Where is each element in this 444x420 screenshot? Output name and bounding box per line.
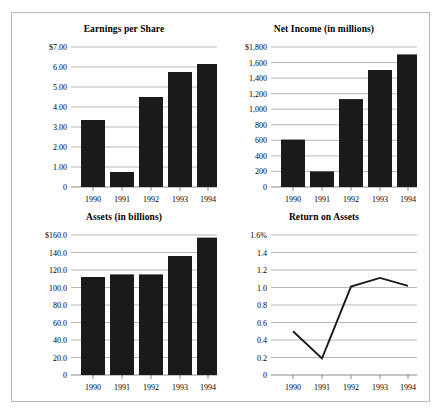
bars-earnings-per-share bbox=[81, 64, 217, 187]
y-tick-label: 1.2 bbox=[257, 266, 267, 275]
x-tick-label: 1993 bbox=[372, 195, 388, 204]
bars-net-income bbox=[281, 54, 417, 187]
y-tick-label: 80.0 bbox=[53, 301, 67, 310]
chart-panel-earnings-per-share: Earnings per Share $7.00 6.00 bbox=[24, 17, 224, 209]
y-tick-label: 3.00 bbox=[53, 123, 67, 132]
x-tick-label: 1990 bbox=[285, 195, 301, 204]
y-tick-label: 200 bbox=[255, 167, 267, 176]
y-tick-label: $160.0 bbox=[45, 231, 67, 240]
y-tick-label: 6.00 bbox=[53, 63, 67, 72]
chart-svg-assets: $160.0 140.0 120.0 100.0 80.0 60.0 40.0 … bbox=[24, 225, 224, 397]
y-tick-label: 1,000 bbox=[249, 105, 267, 114]
x-tick-label: 1994 bbox=[200, 195, 216, 204]
bar bbox=[310, 171, 334, 187]
y-tick-label: 100.0 bbox=[49, 284, 67, 293]
y-axis-return-on-assets: 1.6% 1.4 1.2 1.0 0.8 0.6 0.4 0.2 0 bbox=[250, 231, 417, 380]
y-tick-label: 0.2 bbox=[257, 354, 267, 363]
x-tick-label: 1991 bbox=[314, 195, 330, 204]
plot-area-return-on-assets: 1.6% 1.4 1.2 1.0 0.8 0.6 0.4 0.2 0 bbox=[224, 225, 424, 397]
x-tick-label: 1990 bbox=[285, 383, 301, 392]
x-tick-label: 1992 bbox=[143, 195, 159, 204]
x-tick-label: 1994 bbox=[200, 383, 216, 392]
x-tick-label: 1991 bbox=[114, 195, 130, 204]
y-tick-label: 1,600 bbox=[249, 59, 267, 68]
series-return-on-assets bbox=[293, 278, 408, 359]
chart-svg-earnings-per-share: $7.00 6.00 5.00 4.00 3.00 2.00 1.00 0 bbox=[24, 37, 224, 209]
bar bbox=[110, 172, 134, 187]
y-tick-label: 0.6 bbox=[257, 319, 267, 328]
y-tick-label: 0 bbox=[263, 183, 267, 192]
bar bbox=[139, 274, 163, 375]
bar bbox=[281, 140, 305, 187]
y-tick-label: 140.0 bbox=[49, 249, 67, 258]
chart-title-earnings-per-share: Earnings per Share bbox=[24, 17, 224, 37]
figure-page: Earnings per Share $7.00 6.00 bbox=[0, 0, 444, 420]
y-tick-label: $1,800 bbox=[245, 43, 267, 52]
x-tick-label: 1991 bbox=[114, 383, 130, 392]
y-tick-label: 1.00 bbox=[53, 163, 67, 172]
chart-title-return-on-assets: Return on Assets bbox=[224, 205, 424, 225]
y-tick-label: 40.0 bbox=[53, 336, 67, 345]
x-axis-assets: 1990 1991 1992 1993 1994 bbox=[85, 375, 216, 392]
bar bbox=[81, 120, 105, 187]
y-tick-label: 1.4 bbox=[257, 249, 267, 258]
x-axis-return-on-assets: 1990 1991 1992 1993 1994 bbox=[285, 375, 416, 392]
y-tick-label: 4.00 bbox=[53, 103, 67, 112]
bar bbox=[110, 274, 134, 375]
y-tick-label: 800 bbox=[255, 121, 267, 130]
bar bbox=[168, 256, 192, 375]
bar bbox=[368, 70, 392, 187]
y-tick-label: 0.8 bbox=[257, 301, 267, 310]
y-tick-label: 2.00 bbox=[53, 143, 67, 152]
y-tick-label: 1.6% bbox=[250, 231, 267, 240]
y-tick-label: 1.0 bbox=[257, 284, 267, 293]
bar bbox=[139, 97, 163, 187]
x-tick-label: 1993 bbox=[372, 383, 388, 392]
figure-frame: Earnings per Share $7.00 6.00 bbox=[11, 12, 430, 402]
chart-panel-assets: Assets (in billions) $160.0 bbox=[24, 205, 224, 399]
x-tick-label: 1993 bbox=[172, 383, 188, 392]
x-tick-label: 1991 bbox=[314, 383, 330, 392]
x-axis-net-income: 1990 1991 1992 1993 1994 bbox=[285, 187, 416, 204]
y-tick-label: 0.4 bbox=[257, 336, 267, 345]
x-tick-label: 1992 bbox=[343, 195, 359, 204]
x-tick-label: 1992 bbox=[343, 383, 359, 392]
bar bbox=[81, 277, 105, 375]
chart-svg-return-on-assets: 1.6% 1.4 1.2 1.0 0.8 0.6 0.4 0.2 0 bbox=[224, 225, 424, 397]
bar bbox=[197, 64, 217, 187]
y-tick-label: $7.00 bbox=[49, 43, 67, 52]
y-tick-label: 400 bbox=[255, 152, 267, 161]
y-tick-label: 0 bbox=[63, 183, 67, 192]
bar bbox=[197, 238, 217, 375]
y-tick-label: 60.0 bbox=[53, 319, 67, 328]
y-tick-label: 120.0 bbox=[49, 266, 67, 275]
x-tick-label: 1992 bbox=[143, 383, 159, 392]
x-tick-label: 1990 bbox=[85, 195, 101, 204]
x-tick-label: 1994 bbox=[400, 383, 416, 392]
chart-title-assets: Assets (in billions) bbox=[24, 205, 224, 225]
y-tick-label: 0 bbox=[63, 371, 67, 380]
y-tick-label: 5.00 bbox=[53, 83, 67, 92]
y-tick-label: 600 bbox=[255, 136, 267, 145]
y-tick-label: 0 bbox=[263, 371, 267, 380]
plot-area-assets: $160.0 140.0 120.0 100.0 80.0 60.0 40.0 … bbox=[24, 225, 224, 397]
line-series bbox=[293, 278, 408, 359]
chart-panel-net-income: Net Income (in millions) bbox=[224, 17, 424, 209]
x-axis-earnings-per-share: 1990 1991 1992 1993 1994 bbox=[85, 187, 216, 204]
chart-svg-net-income: $1,800 1,600 1,400 1,200 1,000 800 600 4… bbox=[224, 37, 424, 209]
plot-area-net-income: $1,800 1,600 1,400 1,200 1,000 800 600 4… bbox=[224, 37, 424, 209]
chart-title-net-income: Net Income (in millions) bbox=[224, 17, 424, 37]
bar bbox=[168, 72, 192, 187]
x-tick-label: 1993 bbox=[172, 195, 188, 204]
bar bbox=[339, 99, 363, 187]
bar bbox=[397, 54, 417, 187]
y-tick-label: 1,400 bbox=[249, 74, 267, 83]
bars-assets bbox=[81, 238, 217, 375]
plot-area-earnings-per-share: $7.00 6.00 5.00 4.00 3.00 2.00 1.00 0 bbox=[24, 37, 224, 209]
x-tick-label: 1994 bbox=[400, 195, 416, 204]
x-tick-label: 1990 bbox=[85, 383, 101, 392]
y-tick-label: 20.0 bbox=[53, 354, 67, 363]
chart-panel-return-on-assets: Return on Assets 1.6% bbox=[224, 205, 424, 399]
y-tick-label: 1,200 bbox=[249, 90, 267, 99]
